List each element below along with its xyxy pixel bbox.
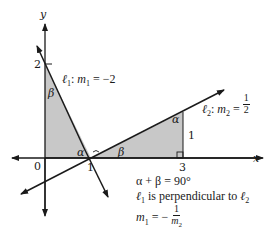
x-tick-label-1: 1	[87, 161, 94, 174]
slope-relation-fraction: 1 m2	[171, 204, 182, 229]
side-length-label: 1	[188, 129, 195, 142]
alpha-label-left: α	[77, 146, 85, 159]
note-slope-relation: m1 = − 1 m2	[136, 206, 182, 231]
x-axis-label: x	[253, 152, 260, 165]
x-tick-label-3: 3	[179, 161, 186, 174]
l1-label: ℓ1: m1 = −2	[62, 73, 116, 88]
right-angle-marker-intersection	[93, 151, 99, 153]
line-l2-lower	[21, 158, 91, 194]
l2-slope-symbol: m	[217, 102, 226, 116]
y-axis-label: y	[39, 8, 47, 21]
l1-slope-subscript: 1	[86, 79, 90, 88]
l2-label: ℓ2: m2 = 1 2	[202, 99, 250, 121]
l1-slope-value: = −2	[93, 72, 116, 86]
y-tick-label-2: 2	[34, 58, 41, 71]
l2-slope-fraction: 1 2	[243, 93, 250, 115]
note-perpendicular: ℓ1 is perpendicular to ℓ2	[136, 190, 249, 205]
alpha-label-right: α	[172, 113, 180, 126]
beta-label-left: β	[47, 87, 54, 100]
note-angle-sum: α + β = 90°	[136, 175, 191, 187]
origin-label: 0	[34, 160, 41, 173]
beta-label-right: β	[117, 146, 124, 159]
l1-slope-symbol: m	[77, 72, 86, 86]
